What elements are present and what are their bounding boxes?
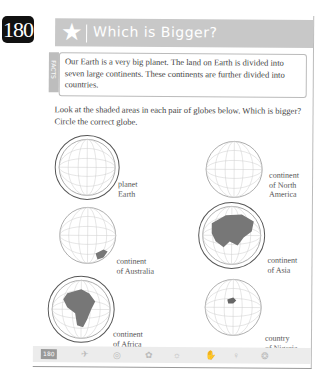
globe-africa[interactable] [47, 275, 115, 343]
globe-australia[interactable] [57, 205, 117, 265]
plane-icon: ✈ [81, 348, 89, 360]
facts-text: Our Earth is a very big planet. The land… [65, 56, 301, 92]
label-asia: continentof Asia [267, 256, 297, 275]
page-number-badge: 180 [2, 16, 34, 43]
facts-box: Our Earth is a very big planet. The land… [59, 52, 307, 98]
label-australia: continentof Australia [116, 257, 154, 276]
facts-tab: FACTS [49, 52, 59, 92]
compass-icon: ◎ [113, 349, 121, 361]
footer-page-number: 180 [41, 349, 57, 359]
globe-nigeria[interactable] [203, 277, 263, 337]
globe-north-america[interactable] [204, 139, 264, 199]
page-footer: 180 ✈ ◎ ✿ ☼ ✋ ♀ ❂ [33, 346, 311, 364]
flower-icon: ✿ [145, 349, 153, 361]
workbook-page: ★ Which is Bigger? FACTS Our Earth is a … [33, 14, 314, 369]
header-divider [86, 24, 87, 42]
globe-earth[interactable] [54, 134, 120, 200]
shell-icon: ❂ [261, 350, 269, 362]
figure-icon: ♀ [233, 349, 240, 361]
hand-icon: ✋ [205, 349, 216, 361]
star-icon: ★ [61, 20, 83, 44]
page-title: Which is Bigger? [93, 23, 217, 40]
lightbulb-icon: ☼ [173, 349, 181, 361]
globe-asia[interactable] [197, 201, 265, 269]
instructions: Look at the shaded areas in each pair of… [54, 104, 304, 129]
facts-tab-label: FACTS [50, 55, 57, 85]
label-planet-earth: planetEarth [118, 180, 138, 199]
label-north-america: continentof NorthAmerica [269, 171, 299, 200]
page-header: ★ Which is Bigger? [55, 18, 313, 48]
